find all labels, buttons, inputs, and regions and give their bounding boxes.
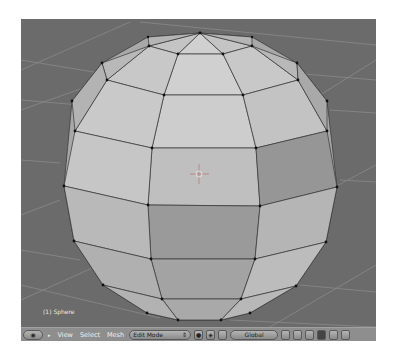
orientation-selector[interactable]: Global — [230, 330, 278, 340]
sphere-shading-icon: ● — [196, 331, 201, 338]
layer-button-2[interactable] — [293, 330, 302, 340]
menu-select[interactable]: Select — [78, 331, 102, 339]
orientation-label: Global — [245, 331, 264, 338]
proportional-edit-button[interactable] — [305, 330, 314, 340]
face-select-button[interactable] — [341, 330, 350, 340]
viewport-canvas — [21, 19, 376, 327]
view3d-icon: ◉ — [30, 331, 35, 338]
vertex-select-button[interactable] — [317, 330, 326, 340]
collapse-menu-icon[interactable]: ▸ — [46, 332, 53, 338]
menu-mesh[interactable]: Mesh — [105, 331, 126, 339]
pivot-button[interactable]: ◈ — [206, 330, 215, 340]
pivot-icon: ◈ — [208, 331, 213, 338]
layer-button-1[interactable] — [281, 330, 290, 340]
edge-select-button[interactable] — [329, 330, 338, 340]
shading-button[interactable]: ● — [194, 330, 203, 340]
viewport-header: ◉ ▸ View Select Mesh Edit Mode ⇕ ● ◈ Glo… — [21, 327, 376, 341]
mode-selector[interactable]: Edit Mode ⇕ — [129, 330, 191, 340]
mode-label: Edit Mode — [133, 331, 163, 338]
editor-type-button[interactable]: ◉ — [23, 330, 43, 340]
object-label: (1) Sphere — [43, 308, 75, 315]
3d-viewport[interactable]: (1) Sphere — [21, 19, 376, 327]
manipulator-toggle[interactable] — [218, 330, 227, 340]
menu-view[interactable]: View — [56, 331, 75, 339]
dropdown-arrows-icon: ⇕ — [182, 331, 187, 338]
